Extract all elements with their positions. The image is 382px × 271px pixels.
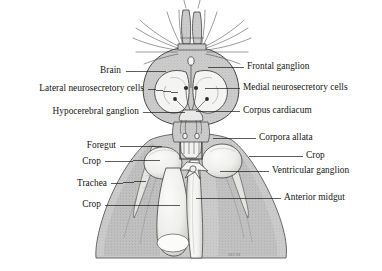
- label-trachea: Trachea: [77, 178, 107, 188]
- antennae-palps: [178, 10, 206, 50]
- label-crop-upper-left: Crop: [82, 156, 101, 166]
- label-corpora-allata: Corpora allata: [259, 132, 313, 142]
- label-crop-lower-left: Crop: [82, 199, 101, 209]
- label-ventricular-ganglion: Ventricular ganglion: [272, 165, 349, 175]
- label-crop-right: Crop: [306, 150, 325, 160]
- label-lateral-neurosecretory-cells: Lateral neurosecretory cells: [39, 83, 144, 93]
- label-hypocerebral-ganglion: Hypocerebral ganglion: [53, 106, 140, 116]
- label-anterior-midgut: Anterior midgut: [284, 192, 345, 202]
- label-brain: Brain: [100, 65, 121, 75]
- crop-lobe-right: [202, 144, 242, 178]
- artist-signature: MCM: [228, 252, 241, 257]
- anatomy-illustration: [0, 0, 382, 271]
- label-foregut: Foregut: [87, 140, 116, 150]
- label-corpus-cardiacum: Corpus cardiacum: [243, 105, 312, 115]
- label-medial-neurosecretory-cells: Medial neurosecretory cells: [243, 82, 348, 92]
- figure-canvas: BrainLateral neurosecretory cellsHypocer…: [0, 0, 382, 271]
- label-frontal-ganglion: Frontal ganglion: [247, 61, 310, 71]
